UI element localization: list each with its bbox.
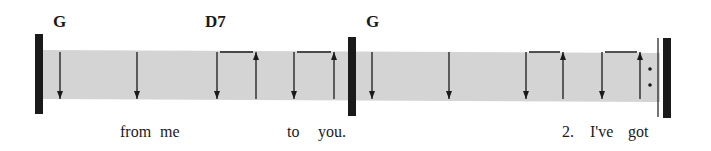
barline-thick-end	[663, 38, 671, 118]
lyric-word: to	[287, 123, 299, 141]
repeat-dot-lower	[648, 83, 652, 87]
chord-label-g: G	[53, 12, 66, 32]
lyric-word: from	[120, 123, 151, 141]
barline-start	[35, 34, 43, 114]
lyric-word: me	[160, 123, 180, 141]
lyric-word: I've	[590, 123, 613, 141]
lyric-word: you.	[318, 123, 346, 141]
chord-label-d7: D7	[205, 12, 226, 32]
lyric-word: got	[628, 123, 648, 141]
verse-number: 2.	[562, 123, 574, 141]
barline-middle	[348, 37, 356, 116]
chord-label-g-2: G	[366, 12, 379, 32]
repeat-dot-upper	[648, 67, 652, 71]
